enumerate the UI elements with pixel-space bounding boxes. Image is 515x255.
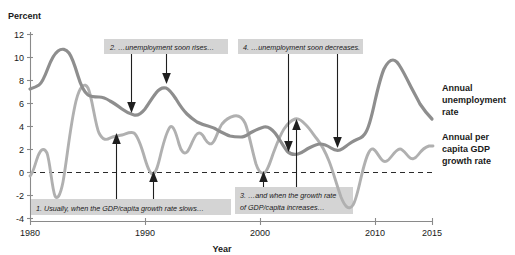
callout-3-text-line-2: of GDP/capita increases… bbox=[240, 203, 325, 212]
callout-1-pointer-a bbox=[112, 133, 121, 199]
x-axis-title: Year bbox=[212, 244, 232, 254]
legend-gdp-growth: Annual per capita GDP growth rate bbox=[442, 132, 491, 166]
callout-1-pointer-b bbox=[149, 171, 158, 199]
callout-2-pointer-a bbox=[127, 54, 136, 113]
callout-3-text-line-1: 3. …and when the growth rate bbox=[240, 191, 336, 200]
callout-2-text: 2. …unemployment soon rises… bbox=[109, 43, 214, 52]
series-gdp-growth-line bbox=[30, 85, 433, 208]
y-axis-title: Percent bbox=[8, 11, 41, 21]
y-tick-neg4: -4 bbox=[16, 214, 24, 224]
legend-unemployment-line-2: unemployment bbox=[442, 95, 506, 105]
x-tick-1980: 1980 bbox=[20, 228, 40, 238]
chart-figure: Percent Year 12 10 8 6 4 2 0 -2 -4 bbox=[0, 0, 515, 255]
y-tick-labels: 12 10 8 6 4 2 0 -2 -4 bbox=[14, 30, 24, 224]
y-tick-2: 2 bbox=[19, 145, 24, 155]
y-tick-neg2: -2 bbox=[16, 191, 24, 201]
legend-gdp-line-1: Annual per bbox=[442, 132, 490, 142]
series-unemployment-line bbox=[30, 49, 432, 154]
y-tick-4: 4 bbox=[19, 122, 24, 132]
x-tick-2010: 2010 bbox=[365, 228, 385, 238]
x-tick-1990: 1990 bbox=[135, 228, 155, 238]
callout-4-text: 4. …unemployment soon decreases. bbox=[243, 43, 360, 52]
y-tick-8: 8 bbox=[19, 76, 24, 86]
callout-2-pointer-b bbox=[162, 54, 171, 84]
callout-4-pointer-b bbox=[333, 54, 342, 148]
legend-unemployment-line-1: Annual bbox=[442, 83, 473, 93]
y-tick-6: 6 bbox=[19, 99, 24, 109]
y-tick-0: 0 bbox=[19, 168, 24, 178]
x-tick-2015: 2015 bbox=[422, 228, 442, 238]
x-tick-labels: 1980 1990 2000 2010 2015 bbox=[20, 228, 442, 238]
legend-unemployment: Annual unemployment rate bbox=[442, 83, 506, 117]
legend-gdp-line-2: capita GDP bbox=[442, 144, 490, 154]
callout-4-pointer-a bbox=[284, 54, 293, 152]
x-tick-2000: 2000 bbox=[250, 228, 270, 238]
line-chart: Percent Year 12 10 8 6 4 2 0 -2 -4 bbox=[0, 0, 515, 255]
y-tick-12: 12 bbox=[14, 30, 24, 40]
legend-unemployment-line-3: rate bbox=[442, 107, 459, 117]
callout-1-text: 1. Usually, when the GDP/capita growth r… bbox=[36, 204, 204, 213]
y-tick-10: 10 bbox=[14, 53, 24, 63]
legend-gdp-line-3: growth rate bbox=[442, 156, 491, 166]
